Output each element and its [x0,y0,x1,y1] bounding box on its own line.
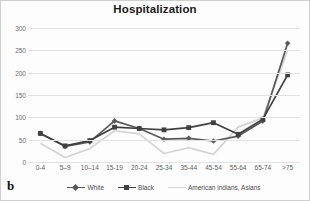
panel-letter: b [7,178,14,194]
data-point-marker [38,131,43,136]
gridline [28,162,300,163]
legend-swatch-icon [118,184,136,191]
data-point-marker [137,126,142,131]
x-axis-tick-label: 25-34 [156,164,173,171]
gridline [28,73,300,74]
y-axis-tick-label: 200 [2,69,26,76]
y-axis-tick-label: 150 [2,92,26,99]
legend-label: American indians, Asians [188,184,261,191]
x-axis: 0-45–910–1415-1920-2425-3435-4445-5455-6… [28,164,300,176]
data-point-marker [211,120,216,125]
y-axis-tick-label: 0 [2,159,26,166]
page-title: Hospitalization [0,3,310,15]
gridline [28,50,300,51]
data-point-marker [63,144,68,149]
y-axis-tick-label: 250 [2,47,26,54]
gridline [28,95,300,96]
x-axis-tick-label: 55-64 [230,164,247,171]
chart-figure: Hospitalization 050100150200250300 0-45–… [0,0,310,201]
chart-legend: WhiteBlackAmerican indians, Asians [28,180,300,194]
plot-area [28,28,300,162]
gridline [28,117,300,118]
data-point-marker [112,125,117,130]
y-axis: 050100150200250300 [0,28,26,162]
legend-item[interactable]: White [67,184,104,191]
legend-item[interactable]: Black [118,184,154,191]
y-axis-tick-label: 100 [2,114,26,121]
y-axis-tick-label: 300 [2,25,26,32]
x-axis-tick-label: 20-24 [131,164,148,171]
series-line [40,75,287,146]
x-axis-tick-label: 65-74 [255,164,272,171]
gridline [28,140,300,141]
x-axis-tick-label: 45-54 [205,164,222,171]
legend-label: White [87,184,104,191]
gridline [28,28,300,29]
x-axis-tick-label: 15-19 [106,164,123,171]
y-axis-tick-label: 50 [2,136,26,143]
legend-swatch-icon [67,184,85,191]
data-point-marker [186,125,191,130]
x-axis-tick-label: 0-4 [36,164,45,171]
data-point-marker [285,40,291,46]
x-axis-tick-label: 35-44 [180,164,197,171]
legend-swatch-icon [168,184,186,191]
x-axis-tick-label: >75 [282,164,293,171]
x-axis-tick-label: 10–14 [81,164,99,171]
legend-label: Black [138,184,154,191]
legend-item[interactable]: American indians, Asians [168,184,261,191]
data-point-marker [162,127,167,132]
x-axis-tick-label: 5–9 [60,164,71,171]
data-point-marker [236,132,241,137]
